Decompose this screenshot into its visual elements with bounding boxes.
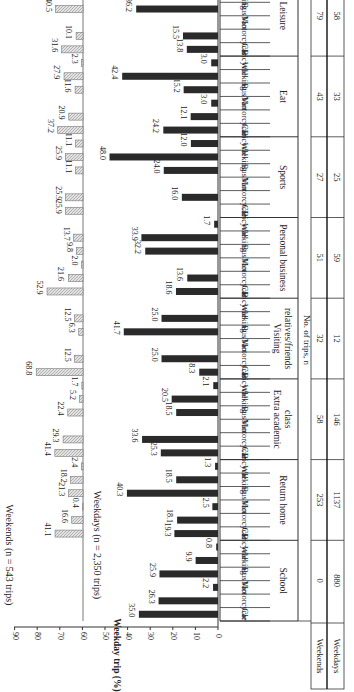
weekday-bar [182,194,218,201]
weekend-data-label: 25.9 [54,146,63,160]
weekday-data-label: 36.2 [124,0,133,12]
trip-mode-share-chart: 0102030405060708090Weekday trip (%)-200-… [0,0,354,692]
weekend-data-label: 20.9 [57,106,66,120]
weekday-bar [164,167,218,174]
weekend-bar [62,46,83,53]
weekend-data-label: 2.4 [70,457,79,467]
table-cell-value: 1137 [332,492,342,509]
weekday-bar [187,46,218,53]
weekday-data-label: 1.3 [203,457,212,467]
table-cell-value: 58 [315,415,325,424]
weekday-tick-label: 20 [169,632,178,640]
weekday-bar [145,248,218,255]
weekend-data-label: 0.4 [71,498,80,508]
weekend-bar [72,517,83,524]
weekday-bar [215,463,218,470]
weekday-data-label: 41.7 [112,321,121,335]
weekday-data-label: 12.0 [179,133,188,147]
weekday-bar [172,396,218,403]
weekend-data-label: 21.6 [56,267,65,281]
table-cell-value: 880 [332,574,342,587]
weekday-data-label: 33.9 [130,227,139,241]
weekday-bar [199,369,218,376]
weekday-bar [176,409,218,416]
weekend-bar [75,355,84,362]
weekend-data-label: 41.1 [43,523,52,537]
table-cell-value: 51 [315,254,325,263]
weekday-bar [213,382,218,389]
mode-label: Van [240,16,250,30]
table-cell-value: 59 [332,254,342,263]
weekday-data-label: 26.3 [147,590,156,604]
weekend-bar [81,463,83,470]
weekday-tick-label: 70 [56,632,65,640]
weekday-data-label: 12.1 [179,106,188,120]
weekday-data-label: 18.5 [164,469,173,483]
weekday-bar [122,73,218,80]
table-cell-value: 43 [315,92,325,101]
weekday-data-label: 24.0 [152,159,161,173]
weekday-bar [161,449,218,456]
weekend-bar [75,315,84,322]
weekend-bar [68,409,83,416]
weekday-axis-title: Weekday trip (%) [111,618,122,691]
weekend-data-label: 10.1 [64,25,73,39]
weekend-bar [68,275,83,282]
weekend-bar [47,288,83,295]
weekend-data-label: 16.6 [60,509,69,523]
weekday-data-label: 19.3 [163,523,172,537]
weekday-data-label: 32.2 [133,240,142,254]
weekday-data-label: 3.0 [199,94,208,104]
weekday-data-label: 9.9 [184,551,193,561]
weekday-tick-label: 50 [101,632,110,640]
weekday-data-label: 35.0 [127,603,136,617]
weekend-bar [55,530,83,537]
weekend-data-label: 18.2 [59,469,68,483]
weekend-data-label: 2.0 [70,256,79,266]
weekend-bar [65,207,83,214]
weekday-bar [136,6,218,13]
table-cell-value: 253 [315,494,325,507]
weekday-tick-label: 60 [79,632,88,640]
weekday-data-label: 25.0 [150,307,159,321]
weekend-bar [82,382,83,389]
weekend-bar [63,436,83,443]
table-row-label: Weekdays [332,639,342,674]
mode-label: Walking [240,0,250,11]
weekend-data-label: 12.5 [63,348,72,362]
weekday-data-label: 15.5 [171,25,180,39]
weekday-bar [159,597,218,604]
weekday-bar [187,275,218,282]
weekend-legend-label: Weekends (n = 543 trips) [3,505,15,606]
weekday-tick-label: 10 [192,632,201,640]
weekend-data-label: 52.9 [35,280,44,294]
weekday-tick-label: 80 [33,632,42,640]
purpose-label: Eat [278,90,288,103]
weekday-data-label: 33.6 [130,428,139,442]
weekend-bar [75,140,83,147]
weekday-data-label: 13.6 [175,267,184,281]
weekend-bar [74,234,83,241]
weekend-bar [75,167,83,174]
weekend-data-label: 11.6 [63,79,72,93]
table-row-label: Weekends [315,639,325,674]
table-cell-value: 79 [315,12,325,21]
weekday-bar [211,100,218,107]
purpose-label: Extra academic [272,390,282,449]
weekend-bar [69,113,83,120]
weekday-data-label: 20.5 [160,388,169,402]
weekday-bar [214,221,218,228]
purpose-label: class [283,410,293,429]
table-cell-value: 0 [315,579,325,583]
weekend-bar [82,261,83,268]
weekend-bar [69,490,83,497]
weekday-bar [213,584,218,591]
table-cell-value: 12 [332,334,342,343]
weekday-bar [212,503,218,510]
weekday-bar [174,530,218,537]
weekday-data-label: 8.3 [187,363,196,373]
weekday-bar [184,86,218,93]
weekday-legend-label: Weekdays (n = 2,350 trips) [91,491,103,599]
weekday-data-label: 3.0 [199,54,208,64]
weekend-data-label: 13.7 [62,227,71,241]
